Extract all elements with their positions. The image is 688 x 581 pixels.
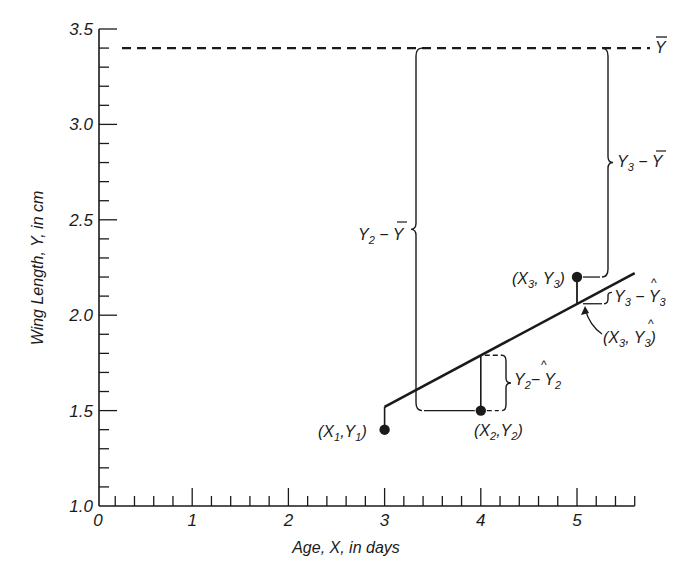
x-tick-label: 4: [476, 511, 485, 530]
point-3-label: (X3, Y3): [512, 270, 565, 290]
regression-chart: 1.01.52.02.53.03.5012345 Age, X, in days…: [0, 0, 688, 581]
hat-y2: ^: [541, 358, 547, 372]
x-tick-label: 3: [380, 511, 390, 530]
x3-y3hat-label: (X3, Y3): [603, 329, 656, 349]
hat-y3b: ^: [648, 317, 654, 331]
y-tick-label: 2.0: [68, 306, 93, 325]
y-axis-title: Wing Length, Y, in cm: [29, 191, 46, 346]
x-tick-label: 0: [93, 511, 103, 530]
residual-markers: [385, 48, 613, 430]
point-2-label: (X2,Y2): [474, 422, 523, 442]
brace-y2-y2hat: [502, 355, 511, 410]
y2-minus-ybar-label: Y2 − Y: [358, 226, 405, 246]
x-tick-label: 5: [572, 511, 582, 530]
brace-y3-ybar: [602, 48, 613, 277]
point-1-label: (X1,Y1): [318, 423, 367, 443]
y-tick-label: 3.5: [69, 20, 93, 39]
x-tick-label: 1: [187, 511, 196, 530]
x-axis-title: Age, X, in days: [291, 539, 400, 556]
fitted-line: [385, 273, 635, 407]
y3-minus-ybar-label: Y3 − Y: [617, 153, 664, 173]
y2-minus-y2hat-label: Y2− Y2: [514, 371, 561, 391]
hat-y3: ^: [651, 276, 657, 290]
data-points: [379, 272, 582, 435]
brace-y3-y3hat: [604, 292, 612, 303]
ybar-label: Y: [655, 39, 667, 56]
axes: [99, 29, 635, 506]
axis-ticks: [99, 29, 635, 506]
y-tick-label: 1.5: [69, 402, 93, 421]
y-tick-label: 2.5: [68, 211, 93, 230]
x-tick-label: 2: [283, 511, 294, 530]
y-tick-label: 3.0: [69, 115, 93, 134]
brace-y2-ybar: [411, 48, 422, 411]
data-point-2: [476, 405, 486, 415]
data-point-1: [379, 424, 389, 434]
arrowhead-icon: [581, 306, 589, 315]
data-point-3: [572, 272, 582, 282]
y3-minus-y3hat-label: Y3 − Y3: [614, 288, 666, 308]
regression-line: [385, 273, 635, 407]
y-tick-label: 1.0: [69, 497, 93, 516]
axis-tick-labels: 1.01.52.02.53.03.5012345: [68, 20, 582, 530]
